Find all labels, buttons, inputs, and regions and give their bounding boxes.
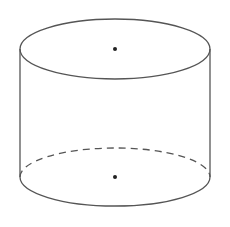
cylinder-diagram <box>0 0 230 227</box>
top-center-point <box>113 47 117 51</box>
bottom-center-point <box>113 175 117 179</box>
